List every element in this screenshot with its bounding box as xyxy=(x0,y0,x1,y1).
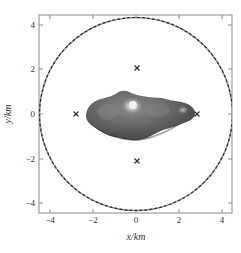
x-axis-title: x/km xyxy=(126,231,146,242)
x-tick-label: −2 xyxy=(88,215,98,225)
x-tick-label: 0 xyxy=(134,215,139,225)
x-tick-label: 2 xyxy=(177,215,182,225)
x-marker-top xyxy=(135,66,140,71)
y-tick-label: 2 xyxy=(31,64,36,74)
y-tick-label: −4 xyxy=(25,198,35,208)
x-marker-bottom xyxy=(135,159,140,164)
y-tick-label: 4 xyxy=(31,20,36,30)
y-axis-title: y/km xyxy=(2,105,13,125)
asteroid-body xyxy=(86,91,195,141)
chart-canvas: −4 −2 0 2 4 4 2 0 −2 −4 x/km y/km xyxy=(0,0,241,253)
y-tick-label: −2 xyxy=(25,154,35,164)
x-marker-left xyxy=(74,112,79,117)
x-tick-labels: −4 −2 0 2 4 xyxy=(45,215,225,225)
y-tick-label: 0 xyxy=(31,109,36,119)
x-tick-label: 4 xyxy=(220,215,225,225)
y-tick-labels: 4 2 0 −2 −4 xyxy=(25,20,35,208)
x-marker-right xyxy=(195,112,200,117)
x-tick-label: −4 xyxy=(45,215,55,225)
